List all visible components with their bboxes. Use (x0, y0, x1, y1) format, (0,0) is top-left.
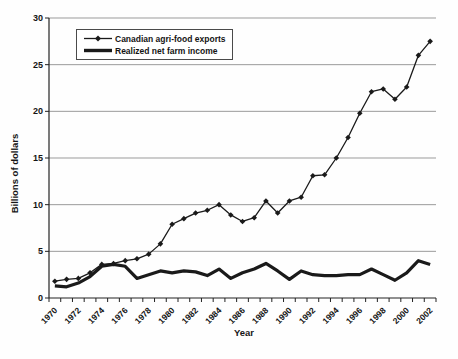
y-axis-title: Billions of dollars (9, 119, 20, 229)
svg-text:1976: 1976 (109, 305, 130, 326)
exports-line-diamond-icon (84, 34, 112, 43)
x-axis-title: Year (222, 327, 266, 338)
svg-text:20: 20 (33, 106, 43, 116)
legend: Canadian agri-food exports Realized net … (76, 29, 233, 60)
farm-income-thick-line-icon (84, 46, 112, 55)
svg-text:1970: 1970 (39, 305, 60, 326)
svg-text:1986: 1986 (226, 305, 247, 326)
svg-text:1994: 1994 (320, 305, 341, 326)
svg-text:1998: 1998 (367, 305, 388, 326)
legend-item-exports: Canadian agri-food exports (84, 33, 226, 44)
svg-text:1974: 1974 (86, 305, 107, 326)
svg-text:1996: 1996 (344, 305, 365, 326)
svg-text:10: 10 (33, 200, 43, 210)
svg-text:2002: 2002 (414, 305, 435, 326)
svg-text:1992: 1992 (297, 305, 318, 326)
legend-label-farm-income: Realized net farm income (115, 46, 218, 56)
svg-text:2000: 2000 (391, 305, 412, 326)
svg-text:1980: 1980 (156, 305, 177, 326)
chart-canvas: 0510152025301970197219741976197819801982… (0, 0, 458, 359)
legend-label-exports: Canadian agri-food exports (115, 34, 226, 44)
svg-text:1972: 1972 (62, 305, 83, 326)
svg-text:1988: 1988 (250, 305, 271, 326)
svg-text:15: 15 (33, 153, 43, 163)
svg-text:5: 5 (38, 246, 43, 256)
svg-text:1990: 1990 (273, 305, 294, 326)
svg-text:25: 25 (33, 60, 43, 70)
svg-text:1984: 1984 (203, 305, 224, 326)
legend-item-farm-income: Realized net farm income (84, 45, 226, 56)
svg-text:0: 0 (38, 293, 43, 303)
svg-text:1982: 1982 (180, 305, 201, 326)
svg-text:1978: 1978 (133, 305, 154, 326)
svg-text:30: 30 (33, 13, 43, 23)
